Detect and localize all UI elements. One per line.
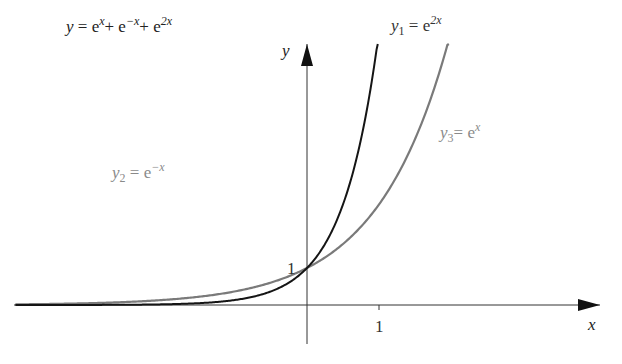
sum-label-exp3: 2x xyxy=(161,14,172,28)
y1-label-name: y xyxy=(391,16,399,35)
x-tick-label-1: 1 xyxy=(375,318,384,335)
curve-y1-exp-2x xyxy=(15,44,377,305)
y3-label-eq: = e xyxy=(454,123,475,142)
y2-label: y2 = e−x xyxy=(112,164,165,181)
sum-label-plus1: + e xyxy=(105,17,126,36)
y1-label-eq: = e xyxy=(405,16,431,35)
y1-label: y1 = e2x xyxy=(391,17,442,34)
sum-label-eq: = e xyxy=(74,17,100,36)
y-tick-label-1: 1 xyxy=(287,260,296,277)
plot-canvas xyxy=(0,0,622,364)
y-axis-arrow-icon xyxy=(301,44,313,66)
y2-label-eq: = e xyxy=(126,163,152,182)
sum-label-y: y xyxy=(66,17,74,36)
x-axis-arrow-icon xyxy=(578,299,600,311)
y3-label-name: y xyxy=(440,123,448,142)
y-axis-label: y xyxy=(282,42,290,59)
y3-label-exp: x xyxy=(475,120,480,134)
sum-label-plus2: + e xyxy=(139,17,160,36)
curve-y3-exp-x xyxy=(15,44,448,304)
sum-label-exp2: −x xyxy=(126,14,139,28)
y2-label-name: y xyxy=(112,163,120,182)
exponential-functions-diagram: y = ex+ e−x+ e2x y1 = e2x y2 = e−x y3= e… xyxy=(0,0,622,364)
x-axis-label: x xyxy=(588,316,596,333)
sum-curve-label: y = ex+ e−x+ e2x xyxy=(66,18,172,35)
y1-label-exp: 2x xyxy=(430,13,441,27)
y3-label: y3= ex xyxy=(440,124,480,141)
y2-label-exp: −x xyxy=(151,160,164,174)
